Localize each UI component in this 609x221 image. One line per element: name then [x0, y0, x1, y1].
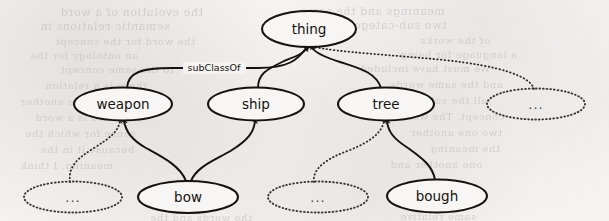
edge-bow-subclassof-ship [191, 121, 255, 181]
edge-more-weapon-subclassof-weapon [70, 121, 120, 182]
node-weapon-label: weapon [96, 96, 149, 112]
node-more-weapon[interactable]: ... [24, 182, 122, 213]
node-bough-label: bough [416, 188, 459, 204]
node-more-tree-label: ... [310, 190, 325, 205]
node-more-top[interactable]: ... [487, 89, 585, 120]
node-bough[interactable]: bough [387, 180, 487, 213]
node-tree[interactable]: tree [338, 88, 434, 121]
node-bow[interactable]: bow [138, 181, 238, 213]
node-more-tree[interactable]: ... [268, 182, 368, 213]
edge-more-top-subclassof-thing [315, 47, 534, 89]
node-more-weapon-label: ... [65, 190, 80, 205]
edge-bough-subclassof-tree [387, 121, 435, 180]
taxonomy-graph: subClassOf thing weapon ship tree [0, 0, 609, 221]
node-thing[interactable]: thing [262, 11, 356, 47]
figure-canvas: the evolution of a wordmeanings and the … [0, 0, 609, 221]
edge-labels-layer: subClassOf [183, 62, 246, 74]
edge-bow-subclassof-weapon [124, 121, 186, 181]
edge-more-tree-subclassof-tree [314, 121, 384, 182]
edge-label-subclassof: subClassOf [188, 62, 241, 73]
node-ship[interactable]: ship [208, 88, 304, 121]
node-thing-label: thing [292, 21, 327, 37]
node-more-top-label: ... [528, 97, 543, 112]
nodes-layer: thing weapon ship tree ... [24, 11, 585, 213]
node-weapon[interactable]: weapon [74, 88, 172, 121]
node-tree-label: tree [372, 96, 399, 112]
node-bow-label: bow [174, 189, 202, 205]
node-ship-label: ship [242, 96, 270, 112]
